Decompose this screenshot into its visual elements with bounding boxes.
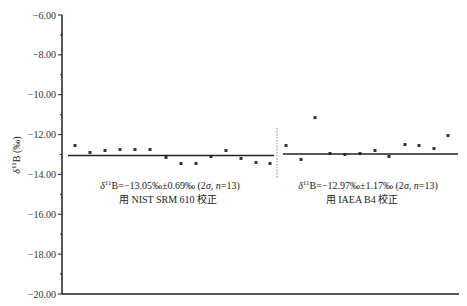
data-point [404,143,407,146]
y-tick-label: −14.00 [28,169,56,180]
data-point [300,158,303,161]
data-point [89,151,92,154]
y-tick-label: −12.00 [28,129,56,140]
scatter-chart: −6.00−8.00−10.00−12.00−14.00−16.00−18.00… [0,0,467,306]
data-point [433,147,436,150]
data-point [119,148,122,151]
data-point [447,134,450,137]
data-points [74,116,450,165]
y-tick-label: −8.00 [33,49,56,60]
data-point [240,157,243,160]
y-axis-label: δ11B (‰) [10,136,23,173]
data-point [74,144,77,147]
data-point [180,162,183,165]
data-point [374,149,377,152]
data-point [269,162,272,165]
data-point [165,156,168,159]
data-point [104,149,107,152]
left-annotation-stats: δ11B=−13.05‰±0.69‰ (2σ, n=13) [100,179,240,192]
right-annotation-method: 用 IAEA B4 校正 [326,193,399,205]
y-tick-label: −16.00 [28,209,56,220]
data-point [149,148,152,151]
y-tick-label: −10.00 [28,89,56,100]
left-annotation-method: 用 NIST SRM 610 校正 [119,193,217,205]
mean-lines [68,154,458,156]
data-point [255,161,258,164]
data-point [225,149,228,152]
y-tick-label: −20.00 [28,289,56,300]
data-point [418,144,421,147]
y-axis-ticks: −6.00−8.00−10.00−12.00−14.00−16.00−18.00… [28,10,62,300]
right-annotation-stats: δ11B=−12.97‰±1.17‰ (2σ, n=13) [298,179,438,192]
data-point [195,162,198,165]
y-tick-label: −18.00 [28,249,56,260]
data-point [285,144,288,147]
data-point [388,155,391,158]
data-point [134,148,137,151]
data-point [314,116,317,119]
y-tick-label: −6.00 [33,10,56,21]
